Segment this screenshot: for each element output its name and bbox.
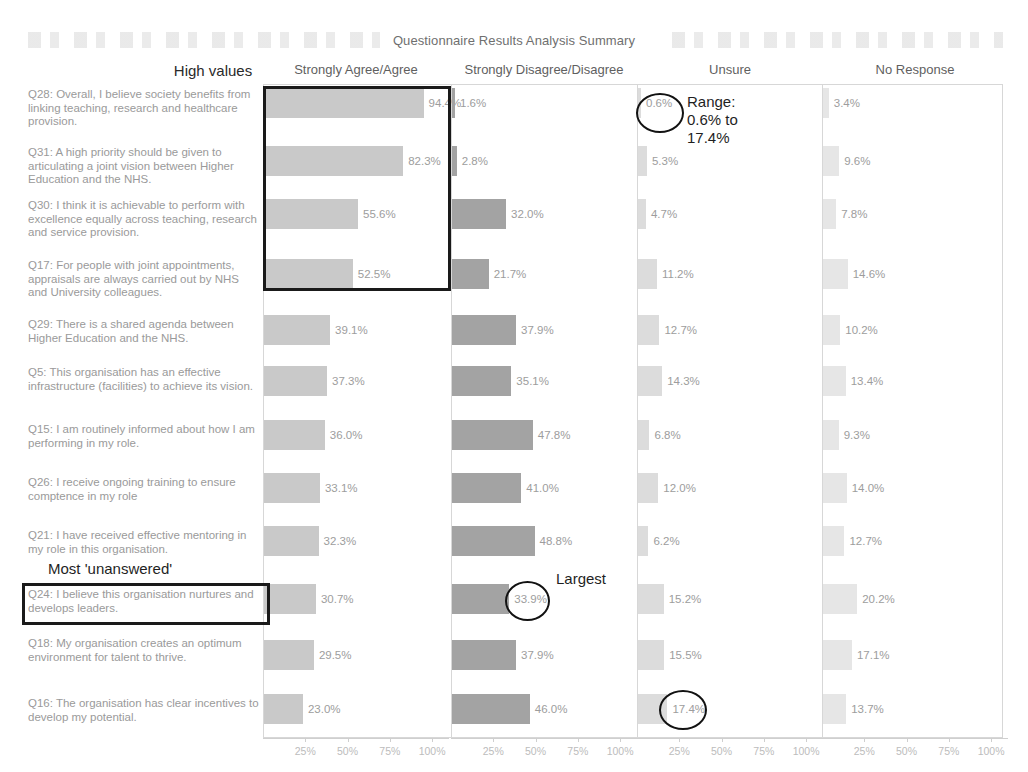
high-values-annotation-label: High values [148, 62, 278, 79]
bar-value-unsure: 5.3% [652, 155, 678, 167]
bar-value-agree: 39.1% [335, 324, 368, 336]
bar-noresponse [823, 584, 857, 614]
bar-value-noresponse: 20.2% [862, 593, 895, 605]
bar-unsure [638, 526, 648, 556]
bar-noresponse [823, 420, 839, 450]
bar-value-noresponse: 10.2% [845, 324, 878, 336]
bar-unsure [638, 473, 658, 503]
high-values-box [263, 86, 451, 291]
axis-line-agree [263, 738, 449, 739]
bar-disagree [452, 473, 521, 503]
axis-tick-label: 75% [931, 745, 967, 757]
bar-value-agree: 30.7% [321, 593, 354, 605]
bar-noresponse [823, 640, 852, 670]
bar-value-disagree: 37.9% [521, 324, 554, 336]
unsure-max-circle [659, 690, 707, 730]
column-header-unsure: Unsure [637, 62, 823, 77]
bar-value-disagree: 21.7% [494, 268, 527, 280]
question-label: Q17: For people with joint appointments,… [28, 259, 260, 300]
bar-value-noresponse: 13.7% [851, 703, 884, 715]
axis-tick-label: 25% [475, 745, 511, 757]
column-header-disagree: Strongly Disagree/Disagree [451, 62, 637, 77]
bar-value-agree: 36.0% [330, 429, 363, 441]
question-label: Q29: There is a shared agenda between Hi… [28, 318, 260, 345]
bar-value-noresponse: 14.0% [852, 482, 885, 494]
question-label: Q28: Overall, I believe society benefits… [28, 88, 260, 129]
axis-tick-label: 75% [746, 745, 782, 757]
bar-disagree [452, 694, 530, 724]
bar-value-unsure: 14.3% [667, 375, 700, 387]
bar-value-noresponse: 14.6% [853, 268, 886, 280]
bar-noresponse [823, 146, 839, 176]
axis-tick-label: 100% [973, 745, 1009, 757]
bar-unsure [638, 259, 657, 289]
axis-tick [991, 738, 992, 742]
question-label: Q26: I receive ongoing training to ensur… [28, 476, 260, 503]
bar-disagree [452, 88, 455, 118]
axis-tick [806, 738, 807, 742]
column-header-noresponse: No Response [822, 62, 1008, 77]
range-circle [636, 93, 684, 133]
bar-disagree [452, 366, 511, 396]
axis-tick [864, 738, 865, 742]
bar-value-unsure: 6.2% [653, 535, 679, 547]
axis-tick [390, 738, 391, 742]
bar-unsure [638, 146, 647, 176]
bar-noresponse [823, 526, 844, 556]
bar-agree [264, 584, 316, 614]
bar-agree [264, 640, 314, 670]
bar-noresponse [823, 366, 846, 396]
axis-tick [764, 738, 765, 742]
chart-title: Questionnaire Results Analysis Summary [0, 33, 1028, 48]
bar-noresponse [823, 259, 848, 289]
axis-tick [620, 738, 621, 742]
chart-page: Questionnaire Results Analysis Summary H… [0, 0, 1028, 772]
bar-value-unsure: 15.2% [669, 593, 702, 605]
bar-agree [264, 366, 327, 396]
bar-value-agree: 37.3% [332, 375, 365, 387]
bar-agree [264, 526, 319, 556]
bar-noresponse [823, 694, 846, 724]
axis-tick-label: 100% [602, 745, 638, 757]
bar-value-unsure: 4.7% [651, 208, 677, 220]
bar-unsure [638, 640, 664, 670]
bar-value-noresponse: 13.4% [851, 375, 884, 387]
bar-value-unsure: 6.8% [654, 429, 680, 441]
bar-value-disagree: 1.6% [460, 97, 486, 109]
bar-value-noresponse: 12.7% [849, 535, 882, 547]
axis-tick [679, 738, 680, 742]
bar-value-disagree: 35.1% [516, 375, 549, 387]
axis-tick-label: 50% [889, 745, 925, 757]
bar-value-disagree: 41.0% [526, 482, 559, 494]
range-annotation-text: Range: 0.6% to 17.4% [687, 93, 738, 147]
bar-value-unsure: 11.2% [662, 268, 694, 280]
bar-value-disagree: 47.8% [538, 429, 571, 441]
axis-tick [722, 738, 723, 742]
axis-tick-label: 25% [287, 745, 323, 757]
bar-disagree [452, 640, 516, 670]
axis-tick [536, 738, 537, 742]
bar-value-disagree: 48.8% [540, 535, 573, 547]
axis-tick-label: 25% [661, 745, 697, 757]
largest-circle [505, 581, 550, 621]
question-label: Q5: This organisation has an effective i… [28, 366, 260, 393]
bar-noresponse [823, 315, 840, 345]
bar-agree [264, 473, 320, 503]
bar-agree [264, 315, 330, 345]
bar-value-disagree: 32.0% [511, 208, 544, 220]
question-label: Q31: A high priority should be given to … [28, 146, 260, 187]
bar-value-agree: 33.1% [325, 482, 358, 494]
bar-value-unsure: 15.5% [669, 649, 702, 661]
axis-tick [578, 738, 579, 742]
question-label: Q30: I think it is achievable to perform… [28, 199, 260, 240]
column-header-agree: Strongly Agree/Agree [263, 62, 449, 77]
bar-value-agree: 29.5% [319, 649, 352, 661]
axis-line-noresponse [822, 738, 1008, 739]
bar-value-disagree: 37.9% [521, 649, 554, 661]
axis-tick [949, 738, 950, 742]
bar-agree [264, 420, 325, 450]
axis-tick-label: 50% [704, 745, 740, 757]
bar-value-noresponse: 9.3% [844, 429, 870, 441]
bar-value-noresponse: 17.1% [857, 649, 890, 661]
bar-disagree [452, 199, 506, 229]
